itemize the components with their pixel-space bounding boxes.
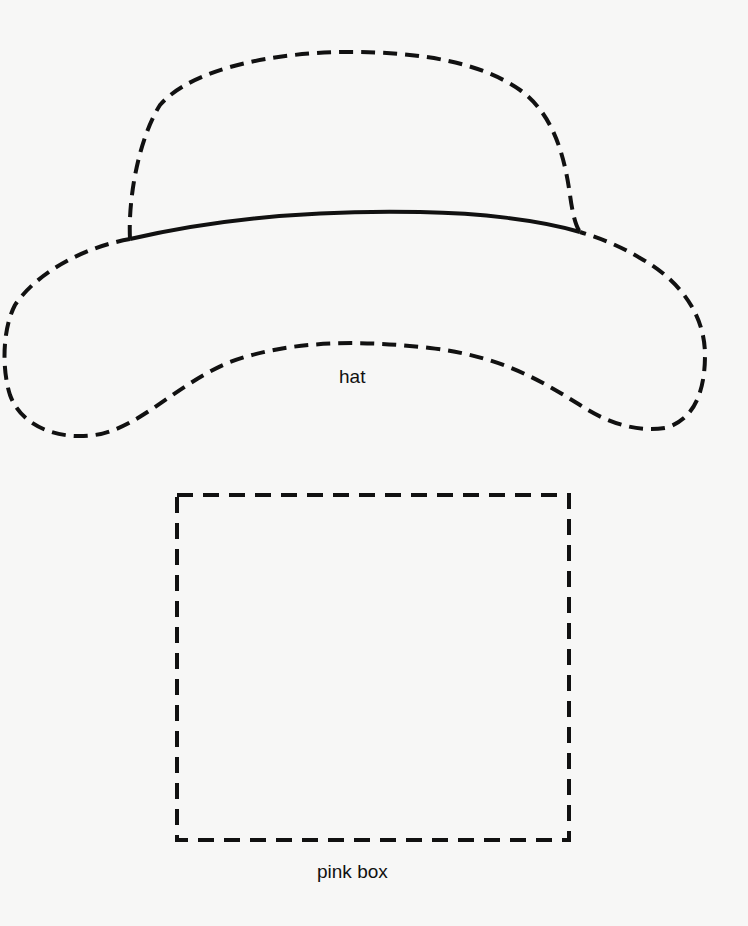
pink-box-label: pink box bbox=[317, 861, 388, 883]
pink-box-outline bbox=[177, 495, 569, 840]
hat-label: hat bbox=[339, 366, 365, 388]
hat-crown-base-line bbox=[130, 212, 580, 239]
hat-brim-outline bbox=[5, 232, 705, 436]
cutout-template-page: hat pink box bbox=[0, 0, 748, 926]
pink-box-shape bbox=[177, 495, 569, 840]
shapes-canvas bbox=[0, 0, 748, 926]
